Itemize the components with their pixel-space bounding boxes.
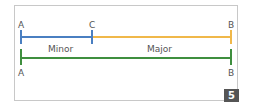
- tick-a-bottom: [20, 49, 22, 65]
- label-b-bottom: B: [228, 68, 234, 78]
- tick-b-bottom: [230, 49, 232, 65]
- tick-c: [91, 30, 93, 44]
- full-segment: [21, 57, 231, 59]
- label-b-top: B: [228, 20, 234, 30]
- minor-segment: [21, 36, 92, 38]
- tick-a-top: [20, 30, 22, 44]
- label-c: C: [89, 20, 95, 30]
- figure-number-badge: 5: [224, 89, 239, 102]
- minor-label: Minor: [48, 44, 73, 54]
- major-label: Major: [147, 44, 172, 54]
- label-a-bottom: A: [18, 68, 24, 78]
- major-segment: [92, 36, 231, 38]
- label-a-top: A: [18, 20, 24, 30]
- tick-b-top: [230, 30, 232, 44]
